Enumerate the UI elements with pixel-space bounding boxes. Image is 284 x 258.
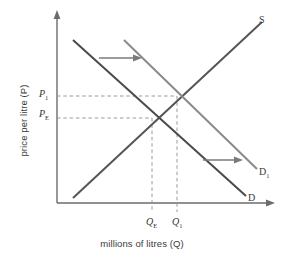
price-label-p1: P1	[39, 88, 48, 101]
quantity-label-qe: QE	[146, 216, 157, 229]
demand-original-curve-label: D	[248, 192, 255, 203]
supply-curve-label: S	[259, 14, 265, 25]
price-label-p1-subscript: 1	[45, 94, 48, 101]
price-label-pe-subscript: E	[45, 114, 49, 121]
supply-curve	[73, 22, 262, 198]
diagram-canvas	[0, 0, 284, 258]
quantity-label-q1-subscript: 1	[179, 222, 182, 229]
demand-shifted-curve-label-subscript: 1	[266, 172, 269, 179]
x-axis-title: millions of litres (Q)	[0, 238, 284, 249]
price-label-pe: PE	[39, 108, 49, 121]
shift-arrows-group	[99, 55, 243, 164]
guide-lines-group	[57, 96, 177, 212]
supply-demand-figure: millions of litres (Q) price per litre (…	[0, 0, 284, 258]
x-axis-arrowhead	[266, 200, 275, 207]
shift-arrow-lower-head	[234, 157, 243, 164]
y-axis-title: price per litre (P)	[18, 51, 29, 191]
demand-shifted-curve-label: D1	[259, 166, 269, 179]
quantity-label-qe-subscript: E	[153, 222, 157, 229]
quantity-label-q1: Q1	[172, 216, 182, 229]
y-axis-arrowhead	[54, 10, 61, 19]
